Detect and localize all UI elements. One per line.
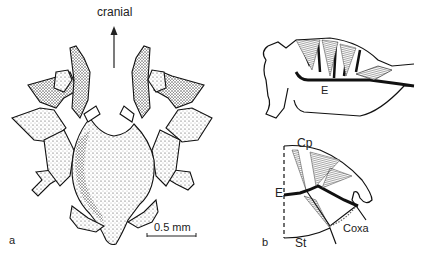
st-label: St	[295, 236, 306, 250]
cranial-arrow-icon	[111, 26, 118, 68]
panel-a-label: a	[9, 234, 15, 246]
cp-label: Cp	[297, 136, 312, 150]
coxa-label: Coxa	[343, 222, 369, 234]
panel-b-label: b	[262, 236, 268, 248]
scale-bar-label: 0.5 mm	[154, 221, 191, 233]
lower-e-label: E	[275, 186, 283, 200]
sclerite-drawing	[12, 46, 212, 245]
direction-label: cranial	[97, 5, 132, 19]
figure-canvas	[0, 0, 424, 258]
scale-bar	[147, 233, 196, 237]
upper-e-label: E	[321, 84, 328, 96]
upper-lateral-drawing	[263, 38, 414, 118]
